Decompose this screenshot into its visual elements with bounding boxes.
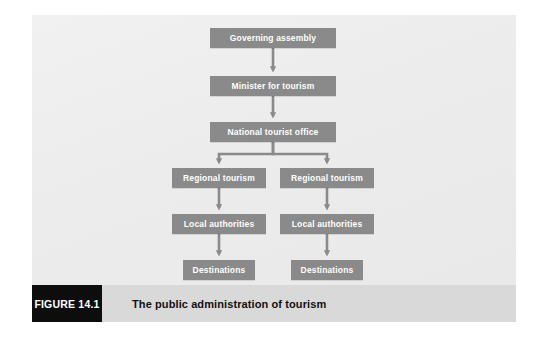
- flowchart-connectors: [32, 15, 516, 285]
- node-destinations-right: Destinations: [291, 260, 363, 280]
- figure-caption-bar: FIGURE 14.1 The public administration of…: [32, 285, 516, 322]
- node-national-tourist-office: National tourist office: [210, 122, 336, 142]
- figure-caption-text: The public administration of tourism: [132, 285, 326, 322]
- node-minister-for-tourism: Minister for tourism: [210, 76, 336, 96]
- edge-national-tourist-office-to-regional-tourism-left: [219, 142, 273, 161]
- node-local-authorities-left: Local authorities: [172, 214, 266, 234]
- figure-number-badge: FIGURE 14.1: [32, 285, 102, 322]
- node-regional-tourism-left: Regional tourism: [172, 168, 266, 188]
- node-governing-assembly: Governing assembly: [210, 28, 336, 48]
- node-destinations-left: Destinations: [183, 260, 255, 280]
- diagram-panel: Governing assemblyMinister for tourismNa…: [32, 15, 516, 285]
- node-regional-tourism-right: Regional tourism: [280, 168, 374, 188]
- node-local-authorities-right: Local authorities: [280, 214, 374, 234]
- figure-container: Governing assemblyMinister for tourismNa…: [0, 0, 546, 352]
- edge-national-tourist-office-to-regional-tourism-right: [273, 142, 327, 161]
